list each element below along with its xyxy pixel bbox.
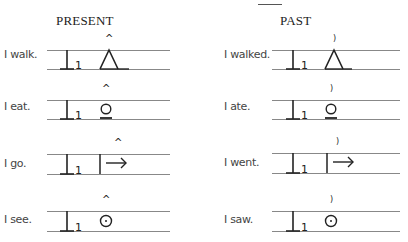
circle-underline-icon: ) [320,82,350,122]
past-marker: ) [336,137,339,146]
past-marker: ) [330,84,333,93]
subject-i-icon: 1 [55,207,85,237]
subject-i-icon: 1 [55,45,85,75]
past-marker: ) [333,34,336,43]
bar-arrow-icon: ) [323,135,368,175]
subject-i-icon: 1 [55,95,85,125]
past-overbar [258,4,282,5]
present-marker: ^ [102,83,110,94]
past-header: PAST [280,13,311,29]
present-label-go: I go. [4,157,26,170]
bar-arrow-icon: ^ [96,136,141,176]
present-label-eat: I eat. [4,100,30,113]
past-marker: ) [330,195,333,204]
triangle-icon: ) [320,32,360,72]
circle-underline-icon: ^ [95,82,125,122]
subject-i-icon: 1 [55,150,85,180]
present-label-see: I see. [4,213,32,226]
svg-text:1: 1 [75,109,82,122]
present-marker: ^ [114,137,122,148]
present-label-walk: I walk. [4,48,37,61]
circle-dot-icon: ^ [95,193,125,233]
svg-text:1: 1 [301,163,308,176]
past-label-see: I saw. [224,213,253,226]
svg-text:1: 1 [301,109,308,122]
subject-i-icon: 1 [281,45,311,75]
present-marker: ^ [102,194,110,205]
present-header: PRESENT [56,13,114,29]
svg-text:1: 1 [75,221,82,234]
past-label-walk: I walked. [224,48,270,61]
svg-text:1: 1 [301,59,308,72]
subject-i-icon: 1 [281,95,311,125]
svg-text:1: 1 [75,59,82,72]
svg-text:1: 1 [75,164,82,177]
subject-i-icon: 1 [281,207,311,237]
subject-i-icon: 1 [281,149,311,179]
circle-dot-icon: ) [320,193,350,233]
past-label-go: I went. [224,156,259,169]
present-marker: ^ [105,33,113,44]
triangle-icon: ^ [95,32,135,72]
past-label-eat: I ate. [224,100,250,113]
svg-text:1: 1 [301,221,308,234]
